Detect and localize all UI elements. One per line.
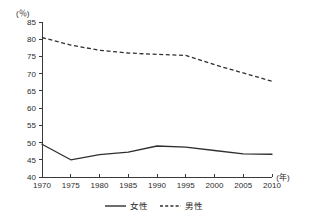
y-axis-tick-label: 80 [27, 35, 36, 44]
x-axis-tick-label: 2005 [234, 181, 252, 190]
x-axis-tick-group: 197019751980198519901995200020052010 [33, 174, 281, 190]
x-axis-tick-label: 1985 [119, 181, 137, 190]
legend-label-female: 女性 [130, 201, 148, 211]
y-axis-unit-label: (％) [16, 9, 30, 18]
x-axis-tick-label: 1990 [148, 181, 166, 190]
x-axis-tick-label: 2000 [206, 181, 224, 190]
line-chart-figure: (％) (年) 40455055606570758085 19701975198… [0, 0, 311, 218]
y-axis-tick-label: 85 [27, 18, 36, 27]
x-axis-tick-label: 1980 [91, 181, 109, 190]
series-line-male [42, 38, 272, 82]
y-axis-tick-label: 75 [27, 52, 36, 61]
y-axis-tick-label: 45 [27, 156, 36, 165]
y-axis-tick-label: 70 [27, 70, 36, 79]
x-axis-tick-label: 1995 [177, 181, 195, 190]
y-axis-tick-label: 50 [27, 139, 36, 148]
series-line-female [42, 144, 272, 160]
y-axis-tick-group: 40455055606570758085 [27, 18, 42, 182]
x-axis-tick-label: 2010 [263, 181, 281, 190]
chart-canvas: (％) (年) 40455055606570758085 19701975198… [0, 0, 311, 218]
y-axis-tick-label: 55 [27, 121, 36, 130]
y-axis-tick-label: 65 [27, 87, 36, 96]
x-axis-tick-label: 1970 [33, 181, 51, 190]
legend: 女性 男性 [105, 201, 203, 211]
x-axis-tick-label: 1975 [62, 181, 80, 190]
legend-label-male: 男性 [185, 201, 203, 211]
y-axis-tick-label: 60 [27, 104, 36, 113]
